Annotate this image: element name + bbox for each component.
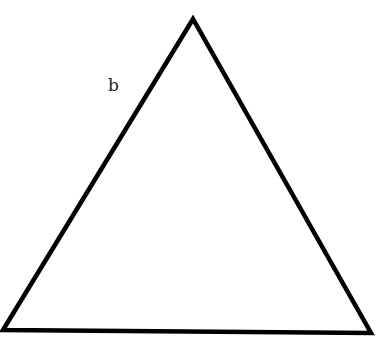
triangle-shape	[3, 19, 371, 333]
side-label-b: b	[108, 77, 119, 94]
triangle-diagram: b	[0, 0, 388, 357]
triangle-figure	[0, 0, 388, 357]
